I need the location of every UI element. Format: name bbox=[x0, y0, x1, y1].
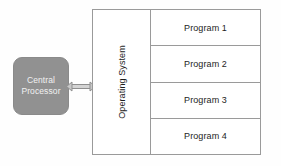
program-row[interactable]: Program 1 bbox=[151, 10, 260, 46]
program-label: Program 3 bbox=[184, 95, 227, 105]
program-row[interactable]: Program 2 bbox=[151, 46, 260, 82]
operating-system-label: Operating System bbox=[117, 45, 127, 119]
system-rectangle: Operating System Program 1 Program 2 Pro… bbox=[92, 9, 261, 155]
program-label: Program 4 bbox=[184, 131, 227, 141]
program-label: Program 1 bbox=[184, 23, 227, 33]
program-row[interactable]: Program 4 bbox=[151, 119, 260, 154]
programs-column: Program 1 Program 2 Program 3 Program 4 bbox=[151, 10, 260, 154]
central-processor-label-line-1: Central bbox=[27, 75, 55, 86]
program-label: Program 2 bbox=[184, 59, 227, 69]
operating-system-column[interactable]: Operating System bbox=[93, 10, 151, 154]
program-row[interactable]: Program 3 bbox=[151, 83, 260, 119]
central-processor-label-line-2: Processor bbox=[21, 86, 60, 97]
diagram-canvas: Central Processor Operating System Progr… bbox=[0, 0, 281, 166]
central-processor-box[interactable]: Central Processor bbox=[13, 57, 69, 115]
